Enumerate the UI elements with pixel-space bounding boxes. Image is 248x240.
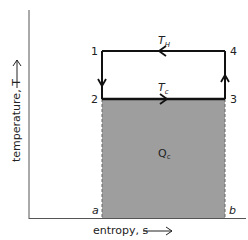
label-t-hot: TH	[158, 34, 171, 49]
label-t-cold: Tc	[158, 81, 169, 96]
point-label-3: 3	[230, 93, 237, 106]
label-b: b	[229, 204, 236, 217]
point-label-1: 1	[91, 45, 98, 58]
point-label-2: 2	[91, 93, 98, 106]
point-label-4: 4	[230, 45, 237, 58]
x-axis-label: entropy, s	[93, 224, 149, 237]
label-a: a	[92, 204, 99, 217]
ts-diagram: 1 2 3 4 TH Tc Qc a b entropy, s temperat…	[0, 0, 248, 240]
y-axis-label: temperature, T	[10, 79, 23, 162]
